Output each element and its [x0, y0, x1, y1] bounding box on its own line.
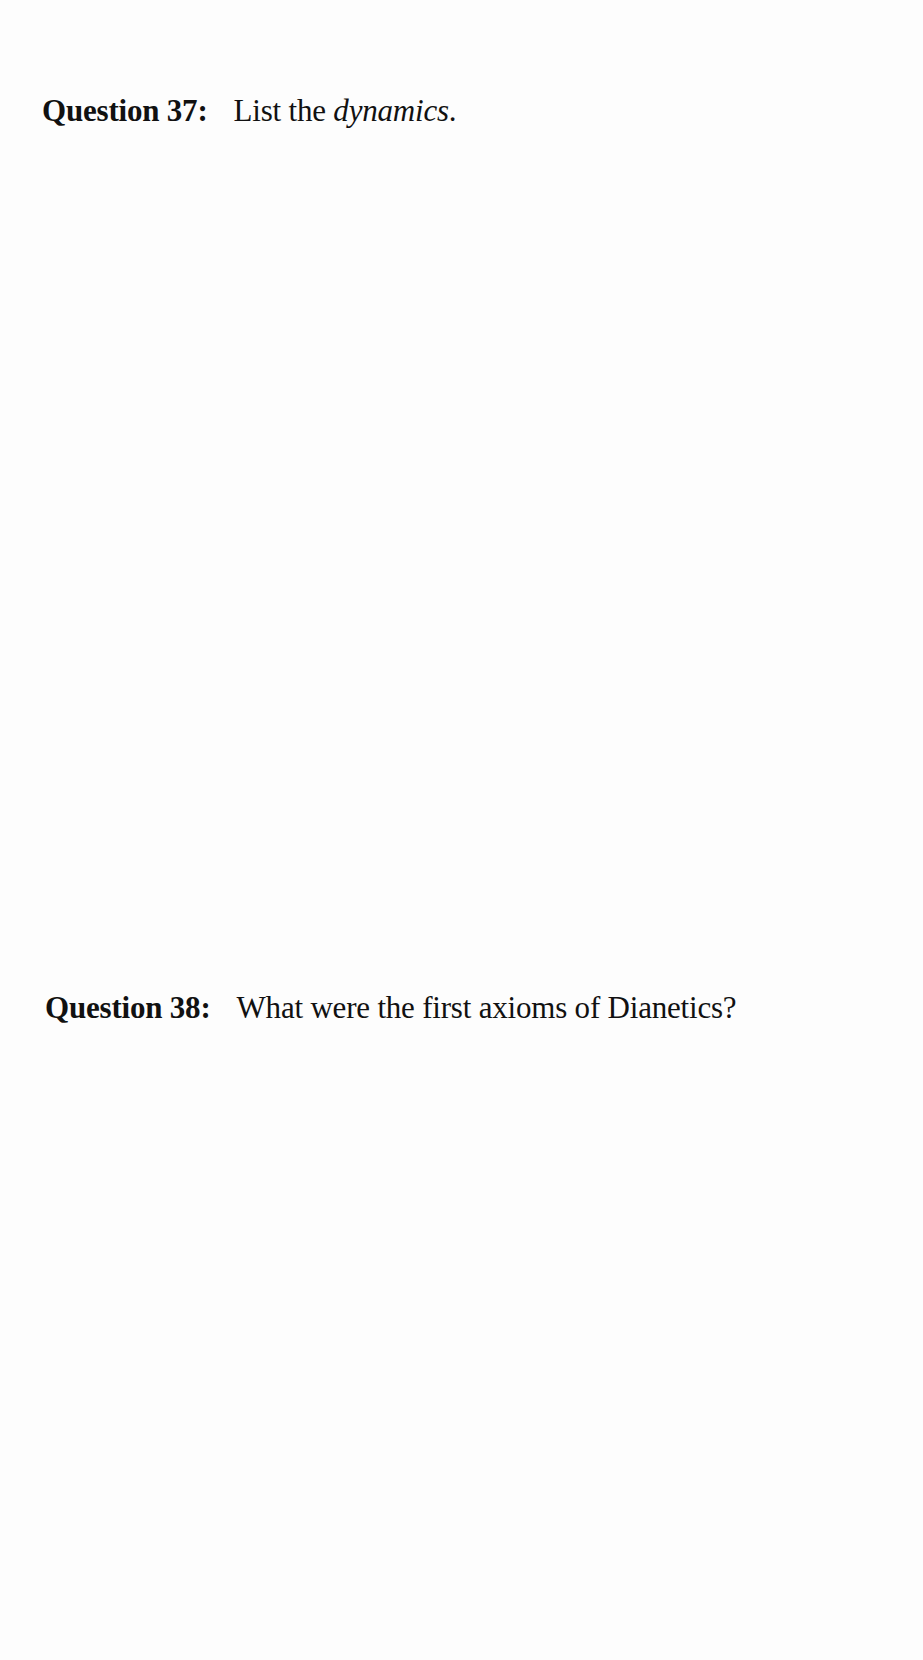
question-text-emphasis: dynamics: [333, 93, 448, 128]
question-text-start: List the: [234, 93, 334, 128]
question-37: Question 37:List the dynamics.: [42, 93, 456, 129]
question-text: List the dynamics.: [234, 93, 457, 128]
question-label: Question 37:: [42, 93, 208, 128]
question-text: What were the first axioms of Dianetics?: [237, 990, 737, 1025]
question-text-end: .: [449, 93, 457, 128]
question-38: Question 38:What were the first axioms o…: [45, 990, 736, 1026]
question-label: Question 38:: [45, 990, 211, 1025]
